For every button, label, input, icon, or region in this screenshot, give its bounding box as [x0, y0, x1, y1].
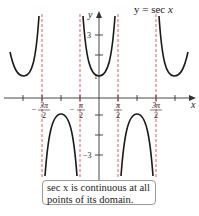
svg-text:π: π — [116, 101, 121, 110]
svg-text:−: − — [70, 105, 75, 114]
chart-title: y = sec x — [134, 3, 173, 15]
svg-text:3π: 3π — [151, 101, 161, 110]
ytick-label-1: 1 — [94, 73, 98, 81]
xtick-label-neg-pi-2: π 2 − — [70, 101, 85, 120]
curve-left-lower — [45, 114, 77, 176]
xtick-label-neg-3pi-2: 3π 2 − — [32, 101, 50, 120]
annotation-box: sec x is continuous at all points of its… — [42, 180, 156, 205]
annotation-line-2: points of its domain. — [47, 194, 151, 206]
curve-right-lower — [121, 114, 153, 176]
xtick-label-3pi-2: 3π 2 — [150, 101, 162, 120]
ytick-label-neg3: −3 — [83, 151, 92, 160]
svg-text:3π: 3π — [39, 101, 49, 110]
title-text: y = sec — [134, 3, 168, 15]
ytick-label-3: 3 — [87, 31, 91, 40]
svg-text:2: 2 — [79, 111, 83, 120]
svg-text:−: − — [32, 105, 37, 114]
svg-text:π: π — [79, 101, 84, 110]
title-variable: x — [168, 3, 173, 15]
annotation-text-1: is continuous at all — [68, 182, 150, 193]
svg-text:2: 2 — [42, 111, 46, 120]
axes — [4, 15, 192, 183]
svg-text:2: 2 — [154, 111, 158, 120]
x-axis-label: x — [190, 99, 196, 110]
y-axis-label: y — [87, 9, 93, 20]
curve-right-upper — [159, 16, 188, 76]
annotation-sec-x: sec x — [47, 182, 68, 193]
annotation-line-1: sec x is continuous at all — [47, 182, 151, 194]
y-axis-arrow-icon — [96, 11, 102, 18]
svg-text:2: 2 — [116, 111, 120, 120]
xtick-label-pi-2: π 2 — [114, 101, 122, 120]
curve-left-upper — [10, 16, 39, 76]
